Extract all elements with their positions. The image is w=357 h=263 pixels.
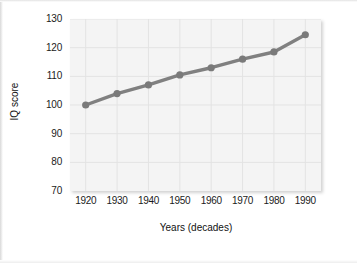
x-axis-tick-label: 1930 — [101, 196, 133, 206]
y-axis-tick-label: 90 — [36, 129, 62, 139]
data-point-marker — [270, 48, 277, 55]
y-axis-tick-labels: 708090100110120130 — [32, 0, 62, 263]
data-point-marker — [145, 81, 152, 88]
x-axis-tick-label: 1980 — [258, 196, 290, 206]
data-point-marker — [113, 90, 120, 97]
y-axis-tick-label: 70 — [36, 186, 62, 196]
x-axis-tick-label: 1940 — [132, 196, 164, 206]
x-axis-tick-labels: 19201930194019501960197019801990 — [0, 196, 357, 210]
x-axis-tick-label: 1970 — [227, 196, 259, 206]
data-point-marker — [82, 101, 89, 108]
x-axis-tick-label: 1950 — [164, 196, 196, 206]
y-axis-tick-label: 100 — [36, 100, 62, 110]
line-chart-figure: IQ score 708090100110120130 192019301940… — [0, 0, 357, 263]
data-point-marker — [208, 64, 215, 71]
gridlines — [70, 19, 321, 191]
y-axis-tick-label: 80 — [36, 157, 62, 167]
data-series-iq-score — [82, 31, 309, 108]
x-axis-title: Years (decades) — [70, 222, 322, 233]
y-axis-title: IQ score — [9, 72, 20, 132]
x-axis-tick-label: 1960 — [195, 196, 227, 206]
data-point-marker — [239, 56, 246, 63]
plot-svg — [70, 19, 321, 191]
x-axis-tick-label: 1990 — [289, 196, 321, 206]
x-axis-tick-label: 1920 — [70, 196, 102, 206]
y-axis-tick-label: 120 — [36, 43, 62, 53]
plot-area — [70, 19, 321, 191]
y-axis-tick-label: 130 — [36, 14, 62, 24]
data-point-marker — [176, 71, 183, 78]
y-axis-tick-label: 110 — [36, 71, 62, 81]
data-point-marker — [302, 31, 309, 38]
